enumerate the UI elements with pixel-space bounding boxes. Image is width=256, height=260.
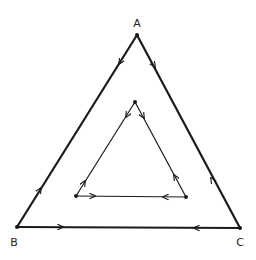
inner-arrow-br-up (174, 175, 178, 182)
vertex-a-dot (135, 33, 139, 37)
vertex-b-dot (15, 225, 19, 229)
inner-arrow-top-right (140, 111, 144, 118)
vertex-label-b: B (10, 236, 18, 249)
inner-triangle (74, 100, 188, 199)
vertex-label-c: C (236, 236, 244, 249)
inner-arrow-bl-up (81, 181, 85, 188)
outer-edge-bc (17, 227, 240, 228)
inner-arrow-top-left (126, 110, 130, 117)
outer-arrow-b-to-a (36, 188, 41, 196)
outer-edge-ac (137, 35, 240, 228)
outer-arrow-a-to-b (119, 56, 124, 64)
triangle-diagram: A B C (0, 0, 256, 260)
inner-vertex-bottom-right (184, 195, 188, 199)
inner-vertex-bottom-left (74, 194, 78, 198)
inner-vertex-top (133, 100, 137, 104)
vertex-c-dot (238, 226, 242, 230)
outer-triangle (15, 33, 242, 230)
vertex-label-a: A (133, 17, 141, 30)
